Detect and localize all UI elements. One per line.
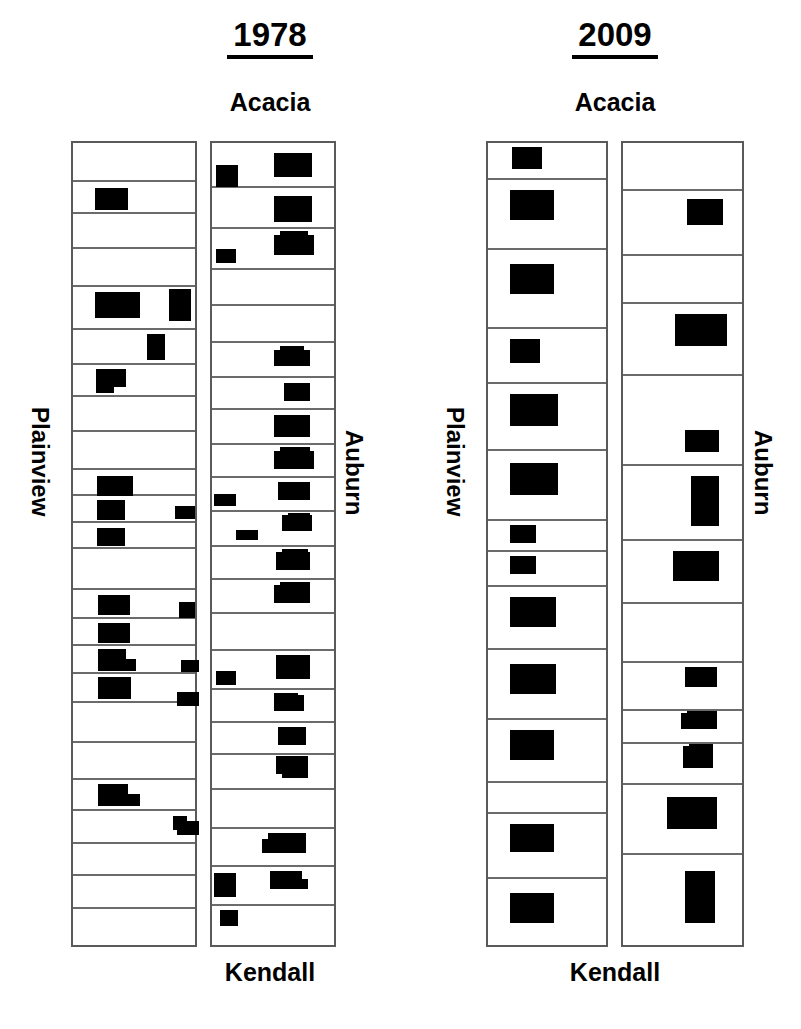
panel-year-2009-text: 2009 — [572, 18, 657, 59]
column-cell — [212, 790, 334, 829]
data-block — [175, 506, 195, 519]
data-block — [510, 463, 558, 495]
column-cell — [623, 604, 742, 663]
column-cell — [73, 249, 195, 286]
data-block — [236, 530, 258, 540]
panel-bottom-label-1978: Kendall — [140, 960, 400, 985]
data-block — [510, 264, 554, 294]
panel-top-label-1978: Acacia — [140, 90, 400, 115]
column-cell — [73, 214, 195, 249]
data-block — [95, 188, 128, 210]
data-block — [685, 430, 719, 452]
data-block — [288, 513, 310, 519]
column-cell — [73, 743, 195, 780]
data-block — [675, 314, 727, 346]
data-block — [667, 797, 717, 829]
column-cell — [488, 521, 606, 552]
column-cell — [488, 329, 606, 384]
column-cell — [488, 814, 606, 880]
data-block — [214, 873, 236, 897]
column-cell — [73, 646, 195, 674]
data-block — [691, 476, 719, 526]
column-strip-auburn-1978 — [210, 141, 336, 947]
column-cell — [623, 256, 742, 304]
column-cell — [212, 755, 334, 790]
panel-year-1978-text: 1978 — [227, 18, 312, 59]
data-block — [169, 289, 191, 321]
data-block — [510, 556, 536, 574]
column-cell — [212, 723, 334, 756]
column-cell — [73, 433, 195, 470]
data-block — [278, 482, 310, 500]
data-block — [98, 595, 130, 615]
column-cell — [73, 590, 195, 619]
side-label-plainview-2009: Plainview — [443, 407, 467, 516]
data-block — [98, 623, 130, 643]
data-block — [216, 165, 238, 187]
data-block — [216, 249, 236, 263]
data-block — [510, 664, 556, 694]
data-block — [687, 199, 723, 225]
data-block — [177, 821, 199, 835]
data-block — [214, 494, 236, 506]
data-block — [280, 582, 310, 590]
column-cell — [212, 343, 334, 378]
data-block — [179, 602, 195, 618]
data-block — [687, 711, 717, 719]
column-cell — [212, 580, 334, 615]
column-cell — [73, 523, 195, 549]
column-cell — [623, 376, 742, 466]
column-cell — [73, 496, 195, 523]
column-cell — [623, 191, 742, 256]
column-cell — [73, 619, 195, 646]
data-block — [96, 383, 114, 393]
panel-top-label-2009: Acacia — [485, 90, 745, 115]
column-cell — [488, 587, 606, 650]
column-cell — [73, 330, 195, 365]
column-cell — [73, 780, 195, 811]
data-block — [270, 879, 308, 889]
data-block — [147, 334, 165, 360]
column-cell — [212, 306, 334, 343]
side-label-auburn-1978: Auburn — [342, 430, 366, 515]
data-block — [280, 447, 310, 455]
column-cell — [488, 783, 606, 814]
data-block — [98, 794, 140, 806]
data-block — [97, 528, 125, 546]
column-cell — [73, 549, 195, 590]
data-block — [510, 339, 540, 363]
column-cell — [73, 703, 195, 742]
column-cell — [212, 547, 334, 580]
data-block — [510, 190, 554, 220]
column-cell — [212, 651, 334, 690]
data-block — [510, 525, 536, 543]
data-block — [97, 500, 125, 520]
side-label-plainview-1978: Plainview — [28, 407, 52, 516]
data-block — [278, 727, 306, 745]
data-block — [510, 824, 554, 852]
data-block — [510, 394, 558, 426]
data-block — [274, 196, 312, 222]
column-cell — [212, 410, 334, 445]
column-cell — [212, 229, 334, 270]
figure-root: 1978 Acacia Kendall Plainview Auburn 200… — [0, 0, 801, 1029]
column-cell — [488, 650, 606, 720]
column-cell — [212, 512, 334, 547]
panel-bottom-label-2009: Kendall — [485, 960, 745, 985]
data-block — [689, 744, 713, 752]
column-cell — [212, 867, 334, 906]
column-cell — [488, 250, 606, 329]
column-cell — [623, 711, 742, 744]
column-cell — [623, 663, 742, 711]
column-cell — [623, 541, 742, 604]
data-block — [282, 549, 308, 557]
column-cell — [488, 720, 606, 783]
data-block — [274, 693, 298, 701]
column-cell — [623, 466, 742, 541]
panel-year-1978: 1978 — [140, 18, 400, 59]
column-cell — [623, 785, 742, 855]
data-block — [98, 659, 136, 671]
column-cell — [488, 451, 606, 521]
column-cell — [73, 876, 195, 910]
side-label-auburn-2009: Auburn — [751, 430, 775, 515]
